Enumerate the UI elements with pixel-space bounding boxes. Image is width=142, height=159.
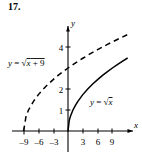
x-tick-label: –9 xyxy=(19,137,30,147)
y-tick-label: 1 xyxy=(59,106,64,116)
y-axis-label: y xyxy=(70,18,75,28)
figure-container: 17. y x –9 –6 –3 3 6 9 xyxy=(0,0,142,159)
label-sqrt-x-plus-9: y = √x + 9 xyxy=(7,58,45,68)
curve-sqrt-x-plus-9 xyxy=(24,35,128,131)
x-tick-label: –3 xyxy=(49,137,60,147)
x-tick-label: –6 xyxy=(34,137,45,147)
x-tick-label: 3 xyxy=(81,137,86,147)
curve-sqrt-x xyxy=(68,58,127,131)
x-tick-label-group: –9 –6 –3 3 6 9 xyxy=(19,137,115,147)
y-axis-arrowhead xyxy=(66,26,70,32)
x-axis-arrowhead xyxy=(128,129,134,133)
y-tick-label: 2 xyxy=(59,85,64,95)
x-tick-label: 6 xyxy=(96,137,101,147)
y-tick-label-group: 1 2 4 xyxy=(59,43,64,116)
label-sqrt-x: y = √x xyxy=(89,97,113,107)
y-tick-label: 4 xyxy=(59,43,64,53)
graph-plot: y x –9 –6 –3 3 6 9 1 2 xyxy=(0,0,142,159)
x-tick-label: 9 xyxy=(110,137,115,147)
x-axis-label: x xyxy=(133,120,138,130)
